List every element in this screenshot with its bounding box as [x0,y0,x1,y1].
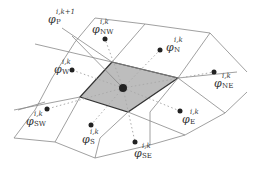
subscript: NE [222,83,233,90]
phi-symbol: φ [166,41,174,54]
label-ne: φ i,k NE [214,78,222,89]
superscript: i,k+1 [56,9,75,16]
superscript: i,k [100,19,109,26]
superscript: i,k [62,59,71,66]
phi-symbol: φ [54,63,62,76]
phi-symbol: φ [134,147,142,160]
superscript: i,k [142,143,151,150]
superscript: i,k [222,73,231,80]
label-nw: φ i,k NW [92,24,100,35]
subscript: N [174,47,180,54]
mesh-stencil-diagram: φ i,k+1 P φ i,k NW φ i,k N φ i,k W φ i,k… [0,0,267,170]
subscript: E [190,119,195,126]
subscript: S [90,139,95,146]
subscript: NW [100,29,113,36]
label-s: φ i,k S [82,134,90,145]
phi-symbol: φ [82,133,90,146]
subscript: SE [142,153,152,160]
phi-symbol: φ [26,115,34,128]
label-sw: φ i,k SW [26,116,34,127]
label-p: φ i,k+1 P [48,14,56,25]
label-se: φ i,k SE [134,148,142,159]
label-w: φ i,k W [54,64,62,75]
phi-symbol: φ [92,23,100,36]
superscript: i,k [34,111,43,118]
subscript: W [62,69,69,76]
phi-symbol: φ [214,77,222,90]
subscript: P [56,19,61,26]
phi-symbol: φ [182,113,190,126]
superscript: i,k [190,109,199,116]
center-cell [80,62,178,112]
superscript: i,k [90,129,99,136]
label-e: φ i,k E [182,114,190,125]
phi-symbol: φ [48,13,56,26]
label-n: φ i,k N [166,42,174,53]
superscript: i,k [174,37,183,44]
subscript: SW [34,121,46,128]
